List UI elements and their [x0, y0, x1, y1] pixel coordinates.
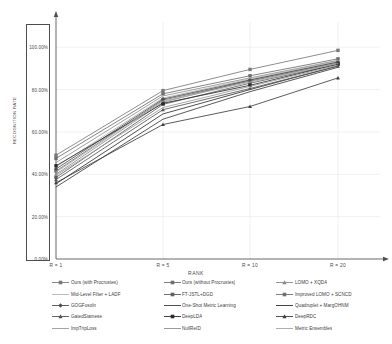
y-tick-label-box: 100.00%80.00%60.00%40.00%20.00%0.00% [26, 24, 50, 261]
y-tick-label: 20.00% [32, 215, 48, 220]
legend-label: ImpTripLoss [71, 326, 97, 331]
legend-marker-none-icon [164, 325, 180, 332]
x-tick-label: R = 5 [156, 263, 169, 268]
legend-marker-triangle-icon [276, 313, 293, 320]
legend-marker-triangle-icon [276, 279, 293, 286]
y-tick-label: 60.00% [32, 130, 48, 135]
legend-marker-none-icon [164, 302, 180, 309]
x-tick-label: R = 10 [242, 263, 258, 268]
x-tick-label: R = 20 [330, 263, 346, 268]
legend-label: Ours (with Procrustes) [71, 280, 118, 285]
legend-item[interactable]: Mid-Level Filter + LADF [52, 288, 164, 299]
legend-item[interactable]: LOMO + XQDA [276, 277, 388, 288]
legend-marker-none-icon [52, 291, 69, 298]
legend-item[interactable]: FT-JSTL+DGD [164, 288, 276, 299]
y-tick-label: 100.00% [29, 45, 48, 50]
legend-item[interactable]: DeepRDC [276, 311, 388, 322]
cmc-chart: RECOGNITION RATE 100.00%80.00%60.00%40.0… [0, 0, 392, 344]
legend-item[interactable]: Metric Ensembles [276, 323, 388, 334]
x-tick-label: R = 1 [49, 263, 62, 268]
legend-item[interactable]: Improved LOMO + SCNCD [276, 288, 388, 299]
legend-marker-none-icon [276, 302, 293, 309]
chart-legend: Ours (with Procrustes)Ours (without Proc… [52, 277, 388, 339]
legend-label: One-Shot Metric Learning [182, 303, 236, 308]
legend-label: DeepLDA [182, 314, 202, 319]
legend-item[interactable]: Ours (with Procrustes) [52, 277, 164, 288]
legend-marker-triangle-icon [52, 313, 69, 320]
legend-item[interactable]: GatedSiamese [52, 311, 164, 322]
legend-item[interactable]: Quadruplet + MargOHNM [276, 300, 388, 311]
legend-label: Quadruplet + MargOHNM [295, 303, 349, 308]
legend-label: GOGFusoIn [71, 303, 96, 308]
legend-item[interactable]: NullReID [164, 323, 276, 334]
y-tick-label: 80.00% [32, 88, 48, 93]
legend-label: NullReID [182, 326, 201, 331]
legend-label: Improved LOMO + SCNCD [295, 292, 352, 297]
legend-label: FT-JSTL+DGD [182, 292, 213, 297]
legend-marker-square-icon [276, 291, 293, 298]
series-lines [54, 49, 340, 187]
y-tick-label: 40.00% [32, 172, 48, 177]
plot-area: RECOGNITION RATE 100.00%80.00%60.00%40.0… [0, 0, 392, 276]
legend-label: Ours (without Procrustes) [182, 280, 235, 285]
grid-lines [56, 22, 380, 259]
legend-marker-square-icon [164, 291, 180, 298]
legend-marker-diamond-icon [52, 302, 69, 309]
plot-svg [0, 0, 392, 276]
legend-item[interactable]: ImpTripLoss [52, 323, 164, 334]
legend-marker-square-icon [164, 279, 180, 286]
legend-label: Mid-Level Filter + LADF [71, 292, 121, 297]
legend-item[interactable]: GOGFusoIn [52, 300, 164, 311]
legend-marker-square-icon [164, 313, 180, 320]
legend-label: LOMO + XQDA [295, 280, 327, 285]
legend-item[interactable]: One-Shot Metric Learning [164, 300, 276, 311]
legend-item[interactable]: DeepLDA [164, 311, 276, 322]
legend-label: GatedSiamese [71, 314, 102, 319]
legend-marker-square-icon [52, 279, 69, 286]
x-axis-title: RANK [0, 270, 392, 276]
legend-marker-none-icon [52, 325, 69, 332]
y-axis-title: RECOGNITION RATE [12, 81, 17, 161]
legend-marker-none-icon [276, 325, 293, 332]
legend-label: DeepRDC [295, 314, 316, 319]
legend-label: Metric Ensembles [295, 326, 332, 331]
legend-item[interactable]: Ours (without Procrustes) [164, 277, 276, 288]
y-tick-label: 0.00% [34, 257, 48, 262]
